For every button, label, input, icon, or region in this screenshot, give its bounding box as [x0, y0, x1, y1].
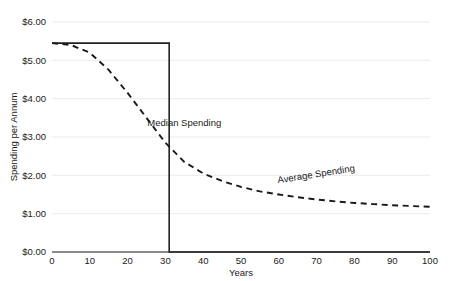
y-tick-label: $1.00	[22, 208, 46, 219]
y-tick-label: $3.00	[22, 131, 46, 142]
series-line-average-spending	[52, 43, 430, 207]
series-line-median-spending	[52, 43, 430, 252]
y-tick-label: $2.00	[22, 170, 46, 181]
x-tick-label: 40	[198, 255, 209, 266]
series-group	[52, 43, 430, 252]
y-axis-title: Spending per Annum	[8, 93, 19, 182]
gridlines-group	[52, 22, 430, 214]
y-tick-labels-group: $0.00$1.00$2.00$3.00$4.00$5.00$6.00	[22, 16, 46, 257]
y-tick-label: $0.00	[22, 246, 46, 257]
x-tick-label: 80	[349, 255, 360, 266]
spending-line-chart: 0102030405060708090100 $0.00$1.00$2.00$3…	[0, 0, 460, 281]
y-tick-label: $6.00	[22, 16, 46, 27]
x-tick-label: 70	[311, 255, 322, 266]
y-tick-label: $4.00	[22, 93, 46, 104]
x-tick-labels-group: 0102030405060708090100	[49, 255, 438, 266]
x-tick-label: 100	[422, 255, 438, 266]
series-label-median-spending: Median Spending	[147, 117, 221, 128]
x-tick-label: 60	[274, 255, 285, 266]
chart-container: 0102030405060708090100 $0.00$1.00$2.00$3…	[0, 0, 460, 281]
x-tick-label: 90	[387, 255, 398, 266]
y-tick-label: $5.00	[22, 55, 46, 66]
x-tick-label: 0	[49, 255, 54, 266]
x-tick-label: 30	[160, 255, 171, 266]
series-label-average-spending: Average Spending	[277, 162, 356, 185]
x-tick-label: 20	[122, 255, 133, 266]
x-tick-label: 50	[236, 255, 247, 266]
x-axis-title: Years	[229, 267, 253, 278]
x-tick-label: 10	[85, 255, 96, 266]
